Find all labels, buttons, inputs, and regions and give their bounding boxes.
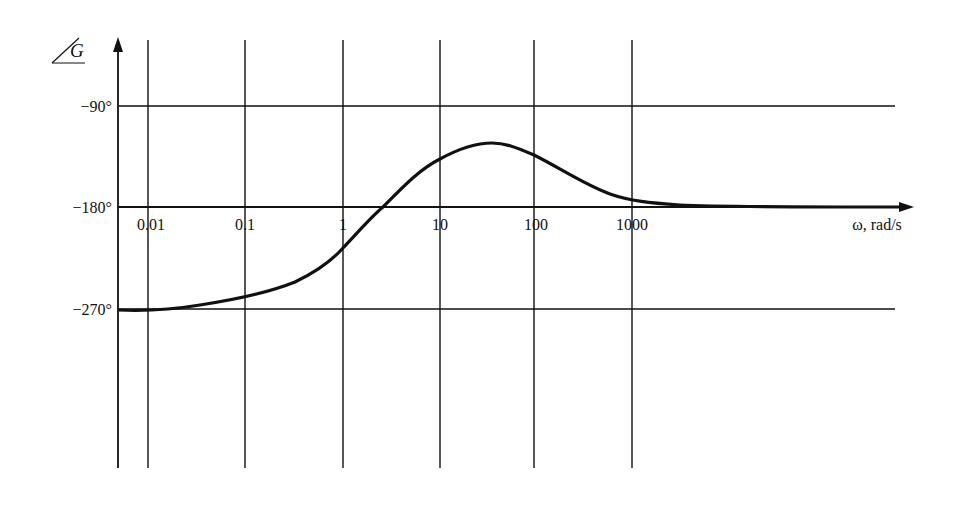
- svg-text:−270°: −270°: [73, 301, 112, 318]
- y-axis: [113, 37, 123, 468]
- svg-text:0.1: 0.1: [235, 216, 255, 233]
- svg-text:−90°: −90°: [81, 98, 112, 115]
- angle-g-label: G: [52, 38, 85, 63]
- y-tick-labels: −90° −180° −270°: [73, 98, 112, 318]
- svg-text:100: 100: [524, 216, 548, 233]
- x-axis-label: ω, rad/s: [852, 216, 902, 233]
- x-tick-labels: 0.01 0.1 1 10 100 1000: [137, 216, 648, 233]
- y-axis-arrow-icon: [113, 37, 123, 52]
- svg-text:1000: 1000: [616, 216, 648, 233]
- svg-text:−180°: −180°: [73, 199, 112, 216]
- phase-plot: G −90° −180° −270° 0.01 0.1 1 10 100 100…: [0, 0, 959, 509]
- svg-text:0.01: 0.01: [137, 216, 165, 233]
- vertical-gridlines: [148, 40, 632, 468]
- svg-text:1: 1: [339, 216, 347, 233]
- svg-text:G: G: [70, 40, 84, 61]
- x-axis-arrow-icon: [899, 202, 914, 212]
- svg-text:10: 10: [432, 216, 448, 233]
